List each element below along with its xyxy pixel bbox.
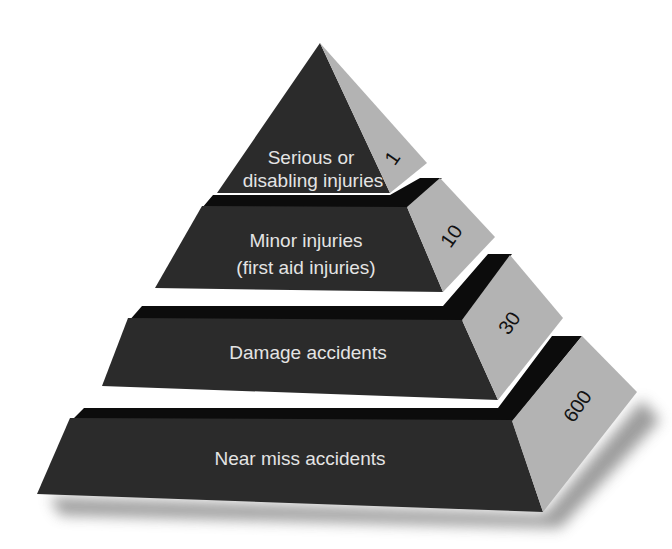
tier-label-line-1: Serious or bbox=[268, 147, 355, 168]
tier-label: Damage accidents bbox=[229, 342, 386, 363]
accident-pyramid-diagram: Near miss accidents 600 Damage accidents… bbox=[0, 0, 672, 549]
tier-serious-injuries: Serious or disabling injuries 1 bbox=[217, 43, 427, 193]
tier-minor-injuries: Minor injuries (first aid injuries) 10 bbox=[155, 178, 495, 292]
tier-label-line-2: disabling injuries bbox=[243, 170, 383, 191]
tier-label-line-1: Minor injuries bbox=[250, 230, 363, 251]
tier-label: Near miss accidents bbox=[214, 448, 385, 469]
tier-label-line-2: (first aid injuries) bbox=[236, 257, 375, 278]
